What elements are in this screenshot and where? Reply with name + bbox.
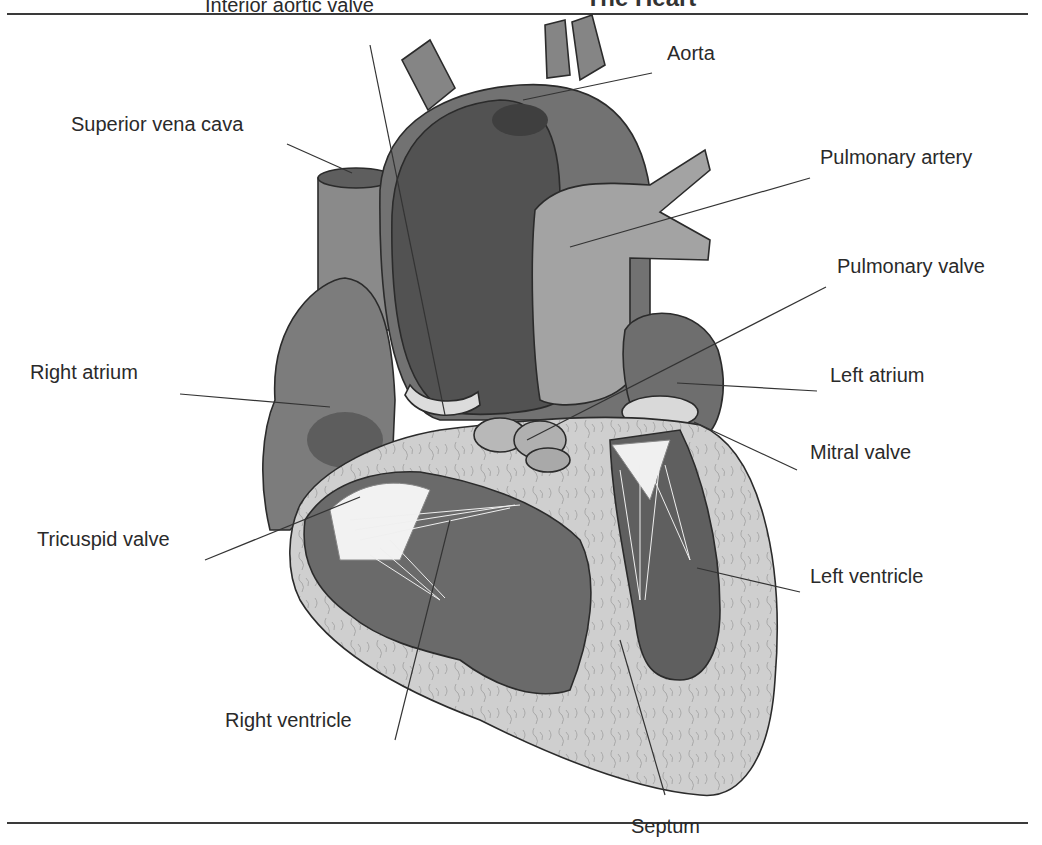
aortic-branch-2 xyxy=(545,20,570,78)
label-septum: Septum xyxy=(631,816,700,836)
label-right-ventricle: Right ventricle xyxy=(225,710,352,730)
label-right-atrium: Right atrium xyxy=(30,362,138,382)
label-pulmonary-valve: Pulmonary valve xyxy=(837,256,985,276)
label-tricuspid-valve: Tricuspid valve xyxy=(37,529,170,549)
label-superior-vena-cava: Superior vena cava xyxy=(71,114,243,134)
aortic-branch-3 xyxy=(572,15,605,80)
leader-superior-vena-cava xyxy=(287,144,352,173)
label-pulmonary-artery: Pulmonary artery xyxy=(820,147,972,167)
heart-body xyxy=(263,15,777,795)
aortic-branch-1 xyxy=(402,40,455,110)
label-interior-aortic-valve: Interior aortic valve xyxy=(205,0,374,15)
label-mitral-valve: Mitral valve xyxy=(810,442,911,462)
label-left-atrium: Left atrium xyxy=(830,365,924,385)
label-left-ventricle: Left ventricle xyxy=(810,566,923,586)
label-aorta: Aorta xyxy=(667,43,715,63)
